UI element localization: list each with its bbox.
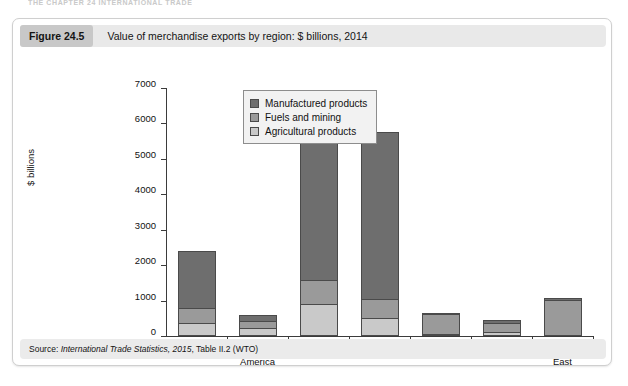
source-band: Source: International Trade Statistics, …	[20, 339, 606, 359]
y-axis-tick-label: 6000	[112, 118, 156, 119]
bar-segment	[361, 318, 399, 336]
bar-stack	[178, 88, 216, 336]
y-axis-tick	[161, 265, 167, 266]
bar-segment	[422, 334, 460, 336]
bar-segment	[178, 251, 216, 308]
legend-item: Fuels and mining	[250, 110, 367, 124]
y-axis-tick	[161, 123, 167, 124]
y-axis-tick-label: 3000	[112, 225, 156, 226]
legend-swatch-icon	[250, 113, 259, 122]
bar-segment	[483, 320, 521, 323]
bar-segment	[544, 300, 582, 335]
legend-item: Agricultural products	[250, 124, 367, 138]
legend-item-label: Agricultural products	[265, 126, 356, 137]
bar-segment	[300, 280, 338, 304]
x-axis-line	[166, 336, 593, 337]
y-axis-title: $ billions	[25, 128, 36, 208]
legend-swatch-icon	[250, 99, 259, 108]
bar-stack	[483, 88, 521, 336]
y-axis-tick	[161, 336, 167, 337]
source-prefix: Source:	[29, 344, 61, 354]
bar-stack	[422, 88, 460, 336]
bar-segment	[178, 308, 216, 323]
figure-header: Figure 24.5 Value of merchandise exports…	[20, 25, 606, 47]
legend-swatch-icon	[250, 127, 259, 136]
y-axis-tick-label: 1000	[112, 296, 156, 297]
y-axis-tick	[161, 159, 167, 160]
bar-segment	[361, 299, 399, 318]
bar-segment	[239, 328, 277, 336]
y-axis-tick-label: 2000	[112, 260, 156, 261]
bar-segment	[483, 323, 521, 332]
bar-segment	[422, 314, 460, 334]
figure-caption: Value of merchandise exports by region: …	[93, 30, 367, 42]
legend-item-label: Fuels and mining	[265, 112, 341, 123]
legend-item-label: Manufactured products	[265, 98, 367, 109]
bar-segment	[483, 332, 521, 336]
y-axis-tick-label: 5000	[112, 154, 156, 155]
y-axis-tick	[161, 194, 167, 195]
bar-segment	[361, 132, 399, 299]
chart-legend: Manufactured productsFuels and miningAgr…	[243, 90, 377, 144]
bar-segment	[300, 304, 338, 336]
figure-card: Figure 24.5 Value of merchandise exports…	[12, 18, 612, 366]
legend-item: Manufactured products	[250, 96, 367, 110]
bar-segment	[422, 313, 460, 314]
bar-stack	[544, 88, 582, 336]
source-title: International Trade Statistics, 2015	[61, 344, 192, 354]
y-axis-tick-label: 7000	[112, 83, 156, 84]
figure-number-chip: Figure 24.5	[20, 25, 93, 47]
y-axis-tick-label: 0	[112, 331, 156, 332]
bar-segment	[178, 323, 216, 336]
source-suffix: , Table II.2 (WTO)	[191, 344, 258, 354]
running-head: THE CHAPTER 24 INTERNATIONAL TRADE	[28, 0, 192, 6]
y-axis-tick	[161, 301, 167, 302]
y-axis-tick	[161, 88, 167, 89]
bar-segment	[239, 315, 277, 321]
chart-plot-area: $ billions 01000200030004000500060007000…	[20, 52, 606, 335]
y-axis-tick-label: 4000	[112, 189, 156, 190]
source-text: Source: International Trade Statistics, …	[29, 344, 258, 354]
bar-segment	[239, 321, 277, 328]
y-axis-tick	[161, 230, 167, 231]
bar-segment	[544, 298, 582, 300]
